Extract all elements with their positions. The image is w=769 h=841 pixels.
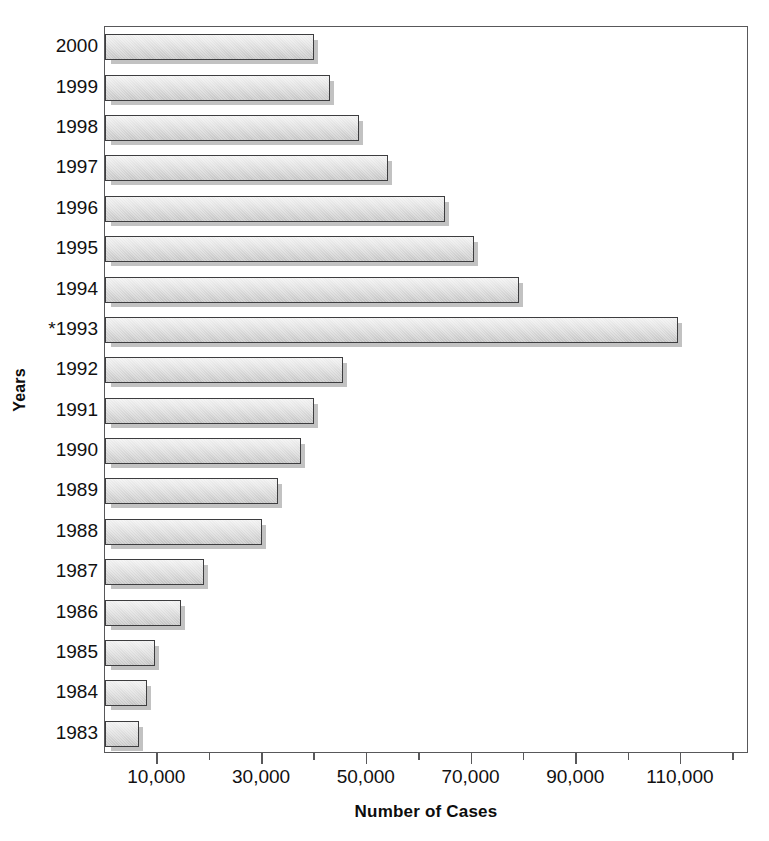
bar-row bbox=[105, 277, 747, 303]
x-axis-major-tick bbox=[261, 753, 263, 764]
y-axis-tick-label: 1985 bbox=[56, 640, 98, 664]
bar-row bbox=[105, 75, 747, 101]
bar[interactable] bbox=[105, 277, 519, 303]
bar[interactable] bbox=[105, 600, 181, 626]
x-axis-minor-tick bbox=[732, 753, 734, 760]
bar-chart-figure: Years 2000199919981997199619951994*19931… bbox=[0, 0, 769, 841]
x-axis-major-tick bbox=[156, 753, 158, 764]
y-axis-tick-label: 1996 bbox=[56, 196, 98, 220]
bar[interactable] bbox=[105, 640, 155, 666]
bar[interactable] bbox=[105, 236, 474, 262]
x-axis-tick-labels: 10,00030,00050,00070,00090,000110,000 bbox=[104, 766, 748, 794]
y-axis-tick-label: 1999 bbox=[56, 75, 98, 99]
bar[interactable] bbox=[105, 317, 678, 343]
bar-row bbox=[105, 640, 747, 666]
y-axis-tick-label: 1994 bbox=[56, 277, 98, 301]
bar[interactable] bbox=[105, 196, 445, 222]
bar-row bbox=[105, 317, 747, 343]
bar-row bbox=[105, 438, 747, 464]
y-axis-tick-label: 1988 bbox=[56, 519, 98, 543]
x-axis-tick-label: 70,000 bbox=[441, 766, 499, 788]
bar-series bbox=[105, 27, 747, 752]
x-axis-ticks bbox=[104, 753, 748, 765]
bar-row bbox=[105, 236, 747, 262]
y-axis-tick-label: 1991 bbox=[56, 398, 98, 422]
bar-row bbox=[105, 721, 747, 747]
y-axis-tick-label: 1987 bbox=[56, 559, 98, 583]
x-axis-minor-tick bbox=[209, 753, 211, 760]
y-axis-tick-label: 2000 bbox=[56, 34, 98, 58]
bar[interactable] bbox=[105, 357, 343, 383]
bar-row bbox=[105, 115, 747, 141]
y-axis-tick-label: 1995 bbox=[56, 236, 98, 260]
bar-row bbox=[105, 398, 747, 424]
x-axis-tick-label: 30,000 bbox=[232, 766, 290, 788]
bar[interactable] bbox=[105, 438, 301, 464]
y-axis-tick-label: 1984 bbox=[56, 680, 98, 704]
bar[interactable] bbox=[105, 155, 388, 181]
x-axis-tick-label: 10,000 bbox=[127, 766, 185, 788]
x-axis-minor-tick bbox=[418, 753, 420, 760]
x-axis-major-tick bbox=[366, 753, 368, 764]
bar[interactable] bbox=[105, 478, 278, 504]
x-axis-title: Number of Cases bbox=[104, 802, 748, 822]
x-axis-major-tick bbox=[471, 753, 473, 764]
bar-row bbox=[105, 478, 747, 504]
bar[interactable] bbox=[105, 34, 314, 60]
y-axis-tick-label: 1990 bbox=[56, 438, 98, 462]
bar[interactable] bbox=[105, 559, 204, 585]
bar[interactable] bbox=[105, 519, 262, 545]
plot-area bbox=[104, 26, 748, 753]
bar-row bbox=[105, 559, 747, 585]
bar-row bbox=[105, 34, 747, 60]
x-axis-major-tick bbox=[680, 753, 682, 764]
y-axis-tick-label: 1989 bbox=[56, 478, 98, 502]
y-axis-tick-labels: 2000199919981997199619951994*19931992199… bbox=[24, 26, 102, 753]
y-axis-tick-label: 1997 bbox=[56, 155, 98, 179]
bar[interactable] bbox=[105, 680, 147, 706]
x-axis-tick-label: 110,000 bbox=[646, 766, 713, 788]
bar-row bbox=[105, 519, 747, 545]
x-axis-major-tick bbox=[575, 753, 577, 764]
bar-row bbox=[105, 357, 747, 383]
bar[interactable] bbox=[105, 75, 330, 101]
bar[interactable] bbox=[105, 398, 314, 424]
x-axis-minor-tick bbox=[523, 753, 525, 760]
y-axis-tick-label: 1998 bbox=[56, 115, 98, 139]
y-axis-tick-label: 1983 bbox=[56, 721, 98, 745]
bar-row bbox=[105, 600, 747, 626]
x-axis-minor-tick bbox=[313, 753, 315, 760]
bar-row bbox=[105, 155, 747, 181]
y-axis-tick-label: *1993 bbox=[48, 317, 98, 341]
x-axis-tick-label: 90,000 bbox=[546, 766, 604, 788]
bar[interactable] bbox=[105, 721, 139, 747]
bar-row bbox=[105, 680, 747, 706]
bar-row bbox=[105, 196, 747, 222]
x-axis-tick-label: 50,000 bbox=[337, 766, 395, 788]
y-axis-tick-label: 1986 bbox=[56, 600, 98, 624]
bar[interactable] bbox=[105, 115, 359, 141]
y-axis-tick-label: 1992 bbox=[56, 357, 98, 381]
x-axis-minor-tick bbox=[628, 753, 630, 760]
